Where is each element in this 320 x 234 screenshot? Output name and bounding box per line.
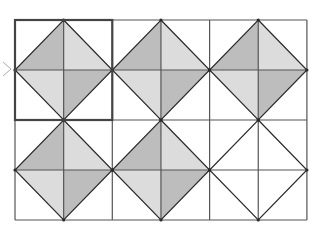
arrow-pointer-icon	[3, 62, 11, 76]
diagram-canvas	[0, 0, 320, 234]
vertex-dot	[257, 18, 260, 21]
vertex-dot	[111, 168, 114, 171]
vertex-dot	[305, 168, 308, 171]
vertex-dot	[208, 68, 211, 71]
vertex-dot	[159, 18, 162, 21]
vertex-dot	[257, 118, 260, 121]
vertex-dot	[305, 68, 308, 71]
vertex-dot	[257, 218, 260, 221]
vertex-dot	[208, 168, 211, 171]
diamond-grid-diagram	[0, 0, 320, 234]
vertex-dot	[159, 118, 162, 121]
vertex-dot	[159, 218, 162, 221]
vertex-dot	[13, 168, 16, 171]
vertex-dot	[62, 218, 65, 221]
